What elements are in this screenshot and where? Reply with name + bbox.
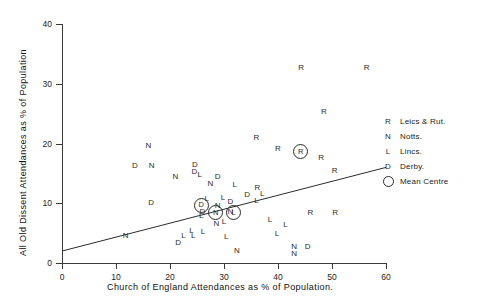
data-point-N: N: [147, 162, 157, 170]
data-point-D: D: [146, 199, 156, 207]
data-point-R: R: [330, 209, 340, 217]
data-point-R: R: [273, 145, 283, 153]
data-point-R: R: [296, 64, 306, 72]
chart-legend: RLeics & Rut.NNotts.LLincs.DDerby.Mean C…: [381, 114, 448, 189]
data-point-N: N: [232, 247, 242, 255]
data-point-N: N: [206, 180, 216, 188]
data-point-L: L: [198, 228, 208, 236]
data-point-R: R: [316, 154, 326, 162]
legend-label: Derby.: [400, 162, 424, 171]
legend-label: Leics & Rut.: [400, 117, 446, 126]
data-point-R: R: [362, 64, 372, 72]
legend-label: Notts.: [400, 132, 422, 141]
mean-centre-marker: D: [194, 198, 209, 213]
data-point-L: L: [230, 181, 240, 189]
legend-label: Lincs.: [400, 147, 422, 156]
legend-label: Mean Centre: [400, 177, 448, 186]
data-point-L: L: [272, 230, 282, 238]
data-point-L: L: [251, 197, 261, 205]
data-point-D: D: [173, 239, 183, 247]
data-point-L: L: [265, 216, 275, 224]
legend-item-lincs: LLincs.: [381, 144, 448, 159]
legend-key-D: D: [381, 162, 395, 171]
legend-item-derby: DDerby.: [381, 159, 448, 174]
legend-key-N: N: [381, 132, 395, 141]
scatter-chart: 010203040 0102030405060 All Old Dissent …: [0, 0, 489, 301]
data-point-L: L: [281, 221, 291, 229]
data-point-L: L: [219, 218, 229, 226]
legend-item-notts: NNotts.: [381, 129, 448, 144]
legend-key-R: R: [381, 117, 395, 126]
data-point-L: L: [221, 233, 231, 241]
legend-item-leics-rut: RLeics & Rut.: [381, 114, 448, 129]
data-point-L: L: [188, 232, 198, 240]
data-point-D: D: [242, 191, 252, 199]
data-point-R: R: [319, 108, 329, 116]
data-point-N: N: [170, 173, 180, 181]
data-point-D: D: [190, 161, 200, 169]
data-point-D: D: [213, 173, 223, 181]
data-point-R: R: [305, 209, 315, 217]
legend-key-L: L: [381, 147, 395, 156]
data-point-D: D: [189, 168, 199, 176]
data-point-D: D: [130, 162, 140, 170]
data-point-N: N: [143, 142, 153, 150]
legend-item-mean-centre: Mean Centre: [381, 174, 448, 189]
data-point-D: D: [303, 243, 313, 251]
data-point-R: R: [330, 167, 340, 175]
data-point-N: N: [121, 232, 131, 240]
data-point-N: N: [289, 250, 299, 258]
data-point-R: R: [251, 134, 261, 142]
mean-centre-icon: [381, 176, 395, 187]
